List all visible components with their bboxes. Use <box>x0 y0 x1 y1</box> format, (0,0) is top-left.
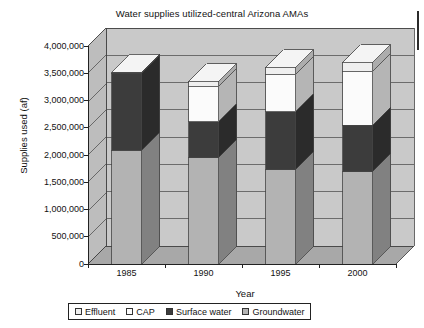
chart-legend: EffluentCAPSurface waterGroundwater <box>68 303 311 320</box>
legend-swatch-icon <box>242 308 249 315</box>
legend-swatch-icon <box>75 308 82 315</box>
legend-swatch-icon <box>126 308 133 315</box>
y-tick-label: 3,000,000 <box>4 96 84 105</box>
x-tick-label-2000: 2000 <box>328 268 388 278</box>
y-tick-label: 2,000,000 <box>4 151 84 160</box>
legend-item-groundwater: Groundwater <box>242 307 304 317</box>
legend-item-surface-water: Surface water <box>166 307 232 317</box>
y-tick-label: 0 <box>4 260 84 269</box>
legend-label: Groundwater <box>252 307 304 317</box>
y-tick-label: 1,500,000 <box>4 178 84 187</box>
x-tick-label-1990: 1990 <box>174 268 234 278</box>
x-tick-label-1985: 1985 <box>97 268 157 278</box>
legend-label: Effluent <box>85 307 115 317</box>
bar-2000 <box>343 45 391 264</box>
x-tick-label-1995: 1995 <box>251 268 311 278</box>
legend-label: Surface water <box>176 307 232 317</box>
y-tick-label: 500,000 <box>4 232 84 241</box>
y-tick-label: 4,000,000 <box>4 42 84 51</box>
legend-label: CAP <box>136 307 155 317</box>
scan-artifact <box>417 11 419 50</box>
bar-1990 <box>189 64 237 264</box>
legend-swatch-icon <box>166 308 173 315</box>
chart-figure: Water supplies utilized-central Arizona … <box>0 0 424 328</box>
bar-1995 <box>266 50 314 264</box>
legend-item-effluent: Effluent <box>75 307 115 317</box>
y-tick-label: 3,500,000 <box>4 69 84 78</box>
y-tick-label: 1,000,000 <box>4 205 84 214</box>
bar-1985 <box>112 54 160 264</box>
y-tick-label: 2,500,000 <box>4 123 84 132</box>
legend-item-cap: CAP <box>126 307 155 317</box>
